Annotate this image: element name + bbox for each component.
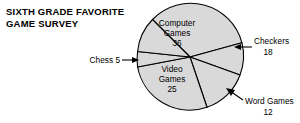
slice-label-computer-games-value: 36 [172, 38, 182, 48]
slice-label-video-games-line-2: Games [159, 74, 186, 84]
slice-label-video-games-value: 25 [167, 84, 177, 94]
chart-title-line-2: GAME SURVEY [6, 18, 79, 29]
callout-chess-label: Chess 5 [90, 55, 121, 65]
chart-title-line-1: SIXTH GRADE FAVORITE [6, 6, 124, 17]
slice-label-computer-games-line-2: Games [164, 28, 191, 38]
slice-label-video-games-line-1: Video [161, 64, 182, 74]
survey-pie-chart-figure: SIXTH GRADE FAVORITE GAME SURVEY Compute… [0, 0, 300, 123]
slice-label-computer-games-line-1: Computer [159, 18, 196, 28]
callout-checkers-value: 18 [263, 47, 273, 57]
callout-word-games-label: Word Games [245, 96, 294, 106]
callout-word-games-value: 12 [263, 107, 273, 117]
callout-checkers-label: Checkers [254, 36, 289, 46]
callout-word-games: Word Games 12 [226, 88, 294, 117]
callout-chess: Chess 5 [90, 55, 139, 65]
